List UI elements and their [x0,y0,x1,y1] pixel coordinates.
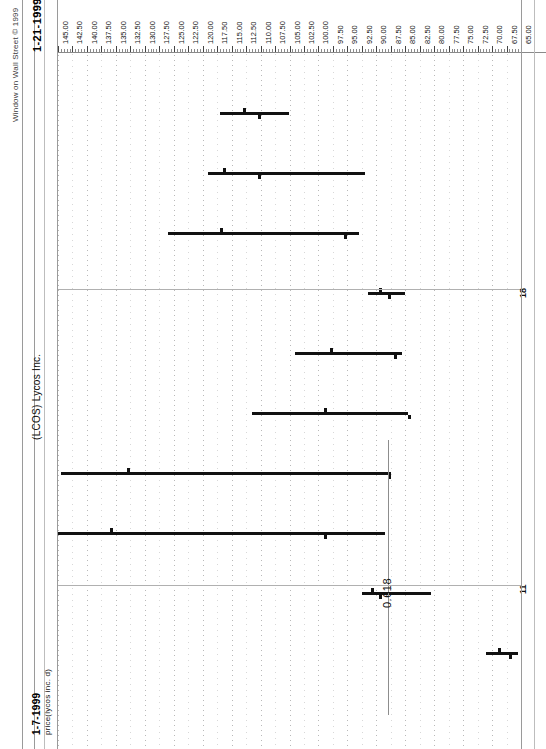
ohlc-range [368,292,406,295]
price-tick-mark-minor [388,49,389,52]
price-tick-mark-minor [417,49,418,52]
price-tick-mark-minor [486,49,487,52]
price-gridline [304,0,305,749]
date-range-start: 1-7-1999 [32,693,42,735]
price-tick-label: 115.00 [235,22,244,44]
price-gridline [116,0,117,749]
price-tick-label: 95.00 [350,25,359,44]
price-gridline [507,0,508,749]
price-tick-mark [347,46,348,52]
price-tick-mark-minor [356,49,357,52]
price-gridline [72,0,73,749]
price-tick-mark-minor [423,49,424,52]
price-tick-mark-minor [504,49,505,52]
ohlc-open-tick [371,588,374,592]
price-tick-mark-minor [385,49,386,52]
price-tick-mark [116,46,117,52]
ohlc-range [220,112,289,115]
price-gridline [420,0,421,749]
price-tick-mark-minor [379,49,380,52]
price-tick-mark-minor [61,49,62,52]
ohlc-close-tick [258,115,261,119]
date-gridline-11 [58,585,521,586]
price-tick-mark-minor [269,49,270,52]
price-tick-mark [391,46,392,52]
price-gridline [391,0,392,749]
price-gridline [290,0,291,749]
price-tick-label: 127.50 [162,21,171,44]
ohlc-range [362,592,431,595]
date-range-end: 1-21-1999 [32,0,43,52]
price-tick-mark-minor [78,49,79,52]
price-gridline [145,0,146,749]
price-tick-label: 135.00 [119,21,128,44]
price-tick-label: 117.50 [220,22,229,44]
price-tick-mark-minor [452,49,453,52]
price-tick-label: 132.50 [133,21,142,44]
price-tick-mark-minor [509,49,510,52]
price-tick-mark-minor [431,49,432,52]
price-tick-mark-minor [153,49,154,52]
price-tick-mark [507,46,508,52]
price-tick-mark-minor [226,49,227,52]
price-tick-mark-minor [165,49,166,52]
price-tick-mark-minor [136,49,137,52]
price-tick-mark [159,46,160,52]
price-tick-label: 70.00 [495,25,504,44]
price-tick-mark-minor [344,49,345,52]
price-tick-mark-minor [518,49,519,52]
price-tick-label: 75.00 [466,25,475,44]
ohlc-range [168,232,359,235]
ohlc-close-tick [344,235,347,239]
price-tick-mark-minor [414,49,415,52]
series-subtitle: price(lycos inc. d) [44,669,52,735]
price-tick-mark-minor [93,49,94,52]
price-tick-mark-minor [194,49,195,52]
price-tick-mark-minor [127,49,128,52]
price-tick-mark-minor [278,49,279,52]
price-gridline [434,0,435,749]
price-tick-mark-minor [281,49,282,52]
price-tick-mark [58,46,59,52]
price-tick-mark [478,46,479,52]
price-tick-mark-minor [428,49,429,52]
price-tick-label: 100.00 [321,21,330,44]
price-tick-mark-minor [252,49,253,52]
price-tick-mark [246,46,247,52]
price-tick-mark-minor [394,49,395,52]
price-tick-mark-minor [368,49,369,52]
ohlc-close-tick [258,175,261,179]
price-tick-mark-minor [110,49,111,52]
price-tick-mark-minor [402,49,403,52]
price-tick-mark-minor [139,49,140,52]
price-gridline [333,0,334,749]
ohlc-open-tick [220,228,223,232]
price-tick-mark-minor [350,49,351,52]
price-tick-mark-minor [460,49,461,52]
price-tick-mark-minor [287,49,288,52]
price-tick-mark-minor [437,49,438,52]
price-tick-mark-minor [480,49,481,52]
price-tick-label: 110.00 [264,22,273,44]
price-tick-mark-minor [284,49,285,52]
price-tick-label: 102.50 [307,21,316,44]
price-tick-label: 137.50 [104,21,113,44]
price-tick-mark-minor [214,49,215,52]
price-tick-mark [420,46,421,52]
price-tick-mark-minor [313,49,314,52]
price-tick-mark-minor [295,49,296,52]
price-gridline [492,0,493,749]
chart-frame: Window on Wall Street © 1999 1-21-1999 (… [0,0,546,749]
price-tick-mark-minor [96,49,97,52]
price-tick-mark-minor [515,49,516,52]
price-tick-mark-minor [151,49,152,52]
price-tick-mark [362,46,363,52]
ohlc-close-tick [324,535,327,539]
price-tick-mark-minor [70,49,71,52]
price-tick-label: 120.00 [206,21,215,44]
price-tick-mark-minor [90,49,91,52]
price-tick-mark-minor [258,49,259,52]
plot-area [58,0,521,749]
price-tick-mark [145,46,146,52]
price-tick-mark-minor [440,49,441,52]
